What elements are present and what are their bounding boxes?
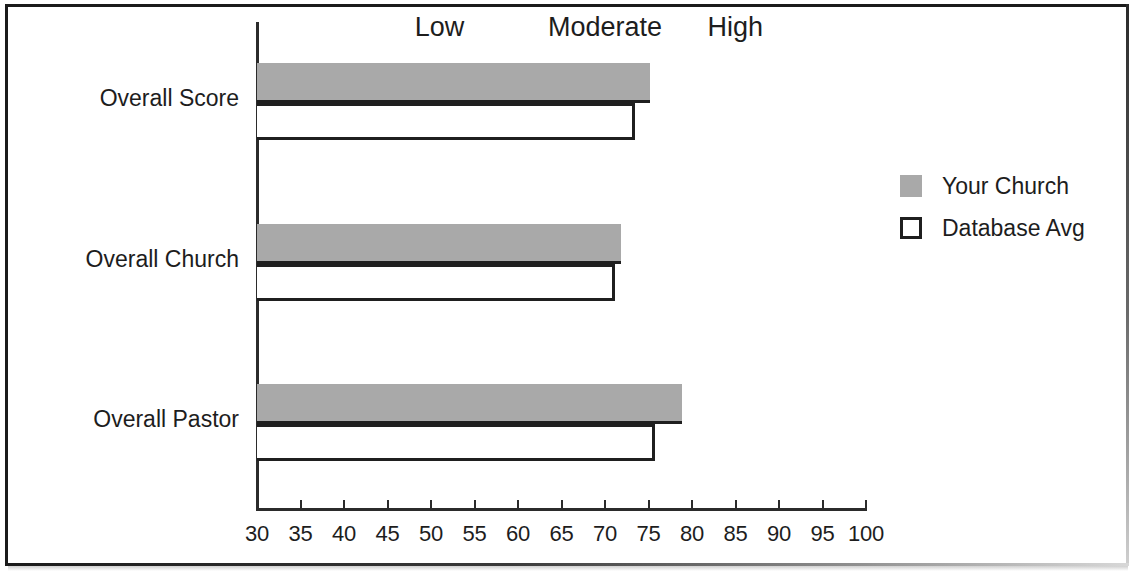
legend-item-your-church: Your Church <box>900 165 1085 207</box>
x-axis-tick <box>691 500 693 511</box>
category-label: Overall Pastor <box>9 406 239 433</box>
legend-swatch-outlined-white-square <box>900 217 922 239</box>
bar-your-church <box>257 384 682 424</box>
x-axis-tick <box>474 500 476 511</box>
x-axis-tick-label: 100 <box>836 521 896 547</box>
bar-database-avg <box>257 264 615 301</box>
band-label-low: Low <box>415 12 465 43</box>
x-axis-tick <box>517 500 519 511</box>
x-axis-tick <box>822 500 824 511</box>
band-label-high: High <box>708 12 764 43</box>
bar-your-church <box>257 224 621 264</box>
x-axis-tick <box>561 500 563 511</box>
legend-item-database-avg: Database Avg <box>900 207 1085 249</box>
band-label-moderate: Moderate <box>548 12 662 43</box>
x-axis-tick <box>343 500 345 511</box>
x-axis-tick <box>648 500 650 511</box>
legend-label: Database Avg <box>942 215 1085 242</box>
x-axis-tick <box>256 500 258 511</box>
bar-database-avg <box>257 424 655 461</box>
x-axis-tick <box>430 500 432 511</box>
chart-page: LowModerateHigh 303540455055606570758085… <box>0 0 1138 578</box>
x-axis-tick <box>735 500 737 511</box>
x-axis-tick <box>387 500 389 511</box>
category-label: Overall Church <box>9 246 239 273</box>
bar-database-avg <box>257 103 635 140</box>
x-axis-tick <box>865 500 867 511</box>
bar-chart-plot-area: LowModerateHigh 303540455055606570758085… <box>0 0 1138 578</box>
bar-your-church <box>257 63 650 103</box>
x-axis-tick <box>778 500 780 511</box>
legend-label: Your Church <box>942 173 1069 200</box>
category-label: Overall Score <box>9 85 239 112</box>
chart-legend: Your Church Database Avg <box>900 165 1085 249</box>
x-axis-tick <box>604 500 606 511</box>
legend-swatch-filled-gray-square <box>900 175 922 197</box>
x-axis-tick <box>300 500 302 511</box>
